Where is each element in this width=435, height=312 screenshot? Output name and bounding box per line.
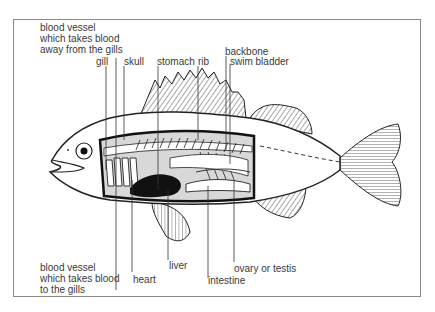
label-swim-bladder: swim bladder [230,56,289,67]
label-intestine: intestine [208,275,245,286]
label-stomach: stomach [157,56,195,67]
label-heart: heart [133,274,156,285]
label-ovary-testis: ovary or testis [234,263,296,274]
body-cavity [100,131,254,201]
label-skull: skull [124,56,144,67]
tail-fin [340,124,401,206]
pelvic-fin [152,202,190,241]
label-rib: rib [198,56,209,67]
label-gill: gill [96,56,108,67]
label-vessel-to-gills: blood vessel which takes blood to the gi… [40,262,120,295]
label-liver: liver [169,260,187,271]
label-vessel-from-gills: blood vessel which takes blood away from… [40,22,123,55]
